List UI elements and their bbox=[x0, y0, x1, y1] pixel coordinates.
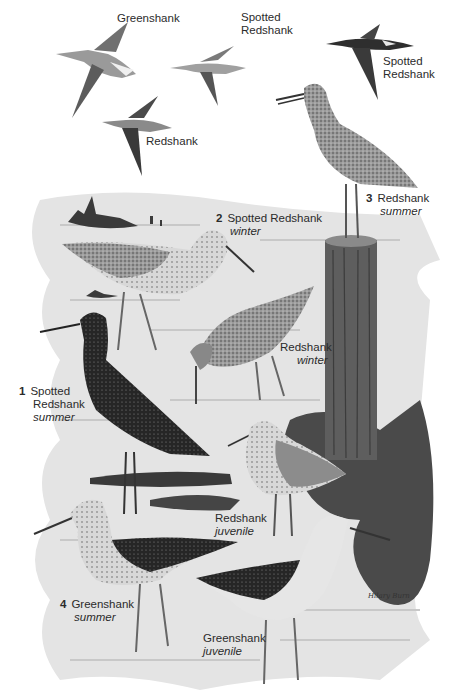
bird-number: 4 bbox=[60, 598, 66, 610]
species-name: Spotted bbox=[383, 55, 423, 67]
species-name: Spotted bbox=[30, 385, 70, 397]
bird-number: 3 bbox=[366, 192, 372, 204]
species-name: Spotted Redshank bbox=[227, 212, 322, 224]
label-redshank-juvenile: Redshank juvenile bbox=[215, 512, 267, 538]
season: winter bbox=[280, 354, 332, 367]
species-name: Greenshank bbox=[71, 598, 134, 610]
season: juvenile bbox=[215, 525, 267, 538]
label-spotted-redshank-dark-flight: Spotted Redshank bbox=[383, 55, 435, 81]
species-name: Redshank bbox=[377, 192, 429, 204]
season: summer bbox=[366, 205, 429, 218]
season: summer bbox=[19, 411, 85, 424]
species-name-line2: Redshank bbox=[241, 24, 293, 36]
bird-spotted-redshank-flight bbox=[170, 46, 246, 106]
species-name: Redshank bbox=[280, 341, 332, 353]
bird-greenshank-flight bbox=[56, 22, 136, 118]
label-bird-1: 1Spotted Redshank summer bbox=[19, 385, 85, 424]
label-bird-2: 2Spotted Redshank winter bbox=[216, 212, 322, 238]
species-name-line2: Redshank bbox=[19, 398, 85, 410]
season: summer bbox=[60, 611, 134, 624]
wooden-post bbox=[325, 235, 377, 460]
species-name: Redshank bbox=[146, 135, 198, 147]
species-name: Greenshank bbox=[203, 632, 266, 644]
label-greenshank-juvenile: Greenshank juvenile bbox=[203, 632, 266, 658]
bird-number: 1 bbox=[19, 385, 25, 397]
season: winter bbox=[216, 225, 322, 238]
label-bird-4: 4Greenshank summer bbox=[60, 598, 134, 624]
label-redshank-flight: Redshank bbox=[146, 135, 198, 148]
species-name: Greenshank bbox=[117, 12, 180, 24]
label-spotted-redshank-flight: Spotted Redshank bbox=[241, 11, 293, 37]
artist-signature: Hilary Burn bbox=[368, 592, 410, 600]
species-name: Redshank bbox=[215, 512, 267, 524]
label-redshank-winter: Redshank winter bbox=[280, 341, 332, 367]
season: juvenile bbox=[203, 645, 266, 658]
bird-number: 2 bbox=[216, 212, 222, 224]
species-name-line2: Redshank bbox=[383, 68, 435, 80]
label-greenshank-flight: Greenshank bbox=[117, 12, 180, 25]
label-bird-3: 3Redshank summer bbox=[366, 192, 429, 218]
species-name: Spotted bbox=[241, 11, 281, 23]
